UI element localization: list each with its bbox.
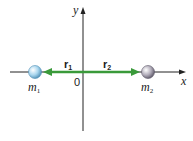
r1-arrowhead-icon bbox=[43, 68, 52, 76]
y-axis-label: y bbox=[73, 4, 78, 16]
m1-label-subscript: 1 bbox=[37, 87, 41, 95]
x-axis-label: x bbox=[181, 75, 186, 87]
m1-label: m1 bbox=[28, 81, 40, 95]
mass-m1-sphere bbox=[29, 66, 42, 79]
r2-label: r2 bbox=[103, 59, 111, 71]
m2-label-subscript: 2 bbox=[150, 87, 154, 95]
y-axis bbox=[81, 7, 86, 131]
r1-label: r1 bbox=[64, 59, 72, 71]
m1-label-base: m bbox=[28, 80, 37, 94]
diagram-canvas bbox=[0, 0, 193, 141]
y-axis-arrow-icon bbox=[81, 7, 86, 14]
m2-label: m2 bbox=[141, 81, 153, 95]
r1-label-subscript: 1 bbox=[68, 64, 72, 71]
r2-label-subscript: 2 bbox=[107, 64, 111, 71]
vector-r2 bbox=[83, 68, 140, 76]
vector-r1 bbox=[43, 68, 83, 76]
m2-label-base: m bbox=[141, 80, 150, 94]
two-mass-diagram: y x 0 r1 r2 m1 m2 bbox=[0, 0, 193, 141]
r2-arrowhead-icon bbox=[131, 68, 140, 76]
origin-label: 0 bbox=[74, 77, 80, 88]
mass-m2-sphere bbox=[142, 66, 155, 79]
